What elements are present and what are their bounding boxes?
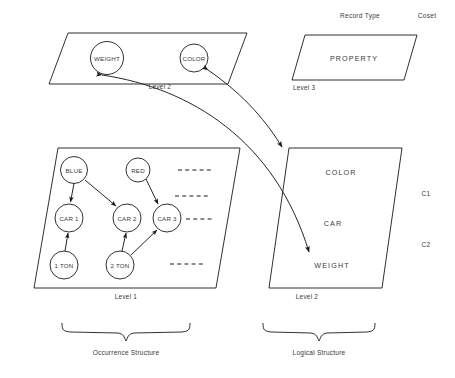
diagram-svg (0, 0, 455, 378)
node-label-car1: CAR 1 (59, 215, 78, 222)
entry-color-logical: COLOR (325, 168, 356, 177)
level1-edges (65, 179, 158, 255)
node-label-2ton: 2 TON (111, 262, 130, 269)
entry-property: PROPERTY (330, 54, 378, 63)
brace-occurrence (62, 323, 190, 341)
diagram-canvas: Record Type Coset WEIGHT COLOR Level 2 P… (0, 0, 455, 378)
node-label-car3: CAR 3 (157, 215, 176, 222)
caption-level1: Level 1 (115, 293, 137, 300)
caption-logical-level2: Level 2 (296, 293, 318, 300)
caption-occurrence-structure: Occurrence Structure (93, 349, 160, 356)
node-label-blue: BLUE (66, 167, 83, 174)
mapping-curve-color (208, 70, 282, 147)
node-label-weight-occurrence: WEIGHT (94, 55, 120, 62)
coset-mark-c1: C1 (421, 190, 430, 197)
node-label-car2: CAR 2 (117, 215, 136, 222)
entry-weight-logical: WEIGHT (314, 261, 349, 270)
coset-mark-c2: C2 (421, 241, 430, 248)
brace-logical (263, 323, 375, 341)
caption-level3: Level 3 (293, 84, 315, 91)
node-label-red: RED (131, 167, 145, 174)
caption-occurrence-level2: Level 2 (149, 83, 171, 90)
entry-car-logical: CAR (324, 219, 342, 228)
caption-logical-structure: Logical Structure (293, 349, 346, 356)
node-label-1ton: 1 TON (55, 262, 74, 269)
header-coset: Coset (418, 12, 436, 19)
header-record-type: Record Type (340, 12, 380, 19)
node-label-color-occurrence: COLOR (182, 55, 205, 62)
